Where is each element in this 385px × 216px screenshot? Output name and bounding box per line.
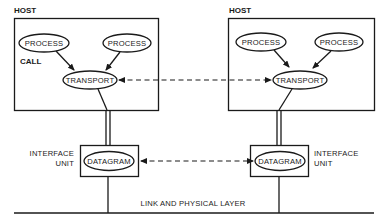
left-interface-label-2: UNIT <box>55 159 74 168</box>
right-process-1-arrow <box>274 50 289 67</box>
network-layer-diagram: HOST PROCESS PROCESS CALL TRANSPORT DATA… <box>0 0 385 216</box>
right-transport: TRANSPORT <box>273 71 327 89</box>
left-interface-unit: DATAGRAM INTERFACE UNIT <box>30 146 139 177</box>
left-process-2: PROCESS <box>103 34 151 52</box>
left-host-label: HOST <box>14 6 36 15</box>
left-process-2-arrow <box>106 52 120 70</box>
left-process-1-label: PROCESS <box>25 39 64 48</box>
link-physical-layer: LINK AND PHYSICAL LAYER <box>14 199 374 213</box>
left-process-1: PROCESS <box>19 34 69 52</box>
transport-arrowhead-left-icon <box>118 77 125 83</box>
right-host-box <box>229 19 375 111</box>
left-interface-label-1: INTERFACE <box>30 149 74 158</box>
right-host: HOST PROCESS PROCESS TRANSPORT DATAGRAM … <box>229 6 375 213</box>
left-host: HOST PROCESS PROCESS CALL TRANSPORT DATA… <box>14 6 159 213</box>
right-interface-label-1: INTERFACE <box>314 149 358 158</box>
right-process-1: PROCESS <box>236 33 286 51</box>
right-process-2-arrow <box>313 51 331 68</box>
right-interface-unit: DATAGRAM INTERFACE UNIT <box>251 146 359 177</box>
right-process-2: PROCESS <box>315 33 363 51</box>
right-datagram-label: DATAGRAM <box>258 157 302 166</box>
left-datagram-label: DATAGRAM <box>87 157 131 166</box>
right-process-2-label: PROCESS <box>320 38 359 47</box>
right-transport-label: TRANSPORT <box>276 76 325 85</box>
left-transport: TRANSPORT <box>63 71 117 89</box>
left-process-1-arrow <box>56 51 74 70</box>
left-transport-connector <box>98 89 107 110</box>
call-label: CALL <box>20 57 41 66</box>
left-transport-label: TRANSPORT <box>66 76 115 85</box>
right-interface-label-2: UNIT <box>314 159 333 168</box>
right-process-1-label: PROCESS <box>242 38 281 47</box>
right-transport-connector <box>279 89 292 110</box>
link-layer-label: LINK AND PHYSICAL LAYER <box>140 199 245 208</box>
right-host-label: HOST <box>229 6 251 15</box>
left-process-2-label: PROCESS <box>108 39 147 48</box>
datagram-arrowhead-left-icon <box>140 158 147 164</box>
